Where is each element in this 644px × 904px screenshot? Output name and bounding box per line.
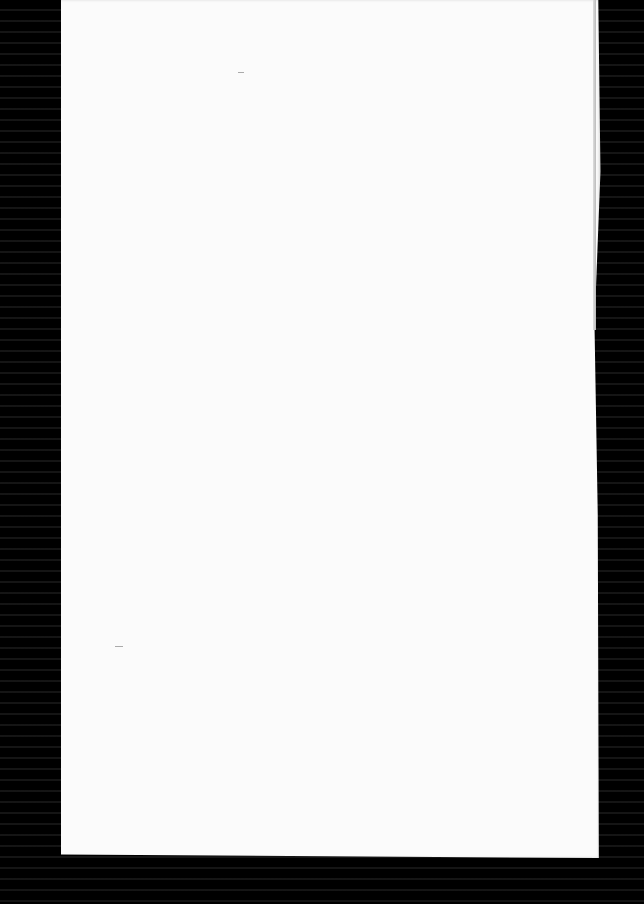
blank-paper-sheet bbox=[61, 0, 601, 858]
paper-speck bbox=[115, 646, 123, 647]
paper-speck bbox=[238, 72, 244, 73]
paper-edge bbox=[593, 0, 596, 330]
